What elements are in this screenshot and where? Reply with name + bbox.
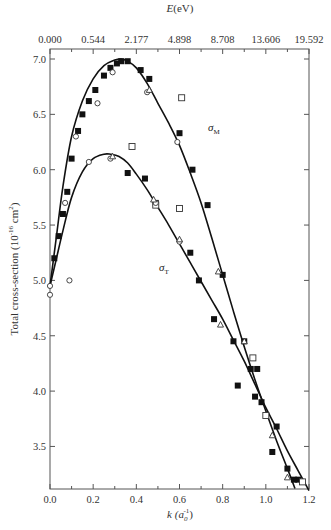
top-tick-label: 0.000 bbox=[38, 34, 62, 45]
y-tick-label: 7.0 bbox=[33, 54, 46, 65]
filled-square-point bbox=[254, 366, 260, 372]
filled-square-point bbox=[252, 394, 258, 400]
filled-square-point bbox=[64, 189, 70, 195]
filled-square-point bbox=[142, 176, 148, 182]
open-square-point bbox=[129, 143, 135, 149]
filled-square-point bbox=[269, 449, 275, 455]
x-tick-label: 0.4 bbox=[130, 494, 144, 505]
top-tick-label: 2.177 bbox=[125, 34, 149, 45]
x-axis-title-main: k (a bbox=[167, 508, 184, 521]
open-circle-point bbox=[110, 70, 115, 75]
y-tick-label: 5.0 bbox=[33, 275, 46, 286]
filled-square-point bbox=[56, 233, 62, 239]
x-tick-label: 1.0 bbox=[259, 494, 272, 505]
filled-square-point bbox=[177, 130, 183, 136]
open-triangle-point bbox=[218, 321, 224, 327]
top-tick-label: 13.606 bbox=[251, 34, 280, 45]
y-axis-title-main: Total cross-section (10 bbox=[8, 235, 21, 336]
filled-square-point bbox=[86, 98, 92, 104]
x-tick-label: 0.0 bbox=[43, 494, 56, 505]
y-tick-label: 5.5 bbox=[33, 220, 46, 231]
x-tick-label: 0.8 bbox=[216, 494, 229, 505]
filled-square-point bbox=[75, 128, 81, 134]
y-axis-title-close: ) bbox=[8, 202, 21, 206]
filled-square-point bbox=[125, 58, 131, 64]
open-circle-point bbox=[73, 134, 78, 139]
top-axis-title: E(eV) bbox=[166, 2, 194, 15]
open-square-point bbox=[250, 355, 256, 361]
filled-square-point bbox=[235, 383, 241, 389]
open-circle-point bbox=[47, 283, 52, 288]
y-axis-title-unit: cm bbox=[8, 209, 20, 226]
filled-square-point bbox=[125, 170, 131, 176]
open-circle-point bbox=[47, 292, 52, 297]
filled-square-point bbox=[51, 255, 57, 261]
open-square-point bbox=[177, 205, 183, 211]
filled-square-point bbox=[60, 211, 66, 217]
x-tick-label: 1.2 bbox=[302, 494, 315, 505]
open-circle-point bbox=[86, 159, 91, 164]
top-tick-label: 4.898 bbox=[168, 34, 192, 45]
filled-square-point bbox=[274, 424, 280, 430]
open-circle-point bbox=[95, 101, 100, 106]
filled-square-point bbox=[146, 76, 152, 82]
open-square-point bbox=[179, 95, 185, 101]
filled-square-point bbox=[230, 338, 236, 344]
filled-square-point bbox=[248, 366, 254, 372]
filled-square-point bbox=[79, 111, 85, 117]
x-tick-label: 0.6 bbox=[173, 494, 186, 505]
filled-square-point bbox=[92, 87, 98, 93]
open-square-point bbox=[300, 479, 306, 485]
open-circle-point bbox=[67, 278, 72, 283]
y-tick-label: 3.5 bbox=[33, 441, 46, 452]
open-circle-point bbox=[175, 139, 180, 144]
filled-square-point bbox=[259, 399, 265, 405]
filled-square-point bbox=[138, 67, 144, 73]
y-tick-label: 6.5 bbox=[33, 109, 46, 120]
open-square-point bbox=[263, 412, 269, 418]
sigma-t-sub: T bbox=[164, 268, 169, 276]
filled-square-point bbox=[118, 58, 124, 64]
sigma-m-curve bbox=[50, 59, 295, 489]
filled-square-point bbox=[196, 277, 202, 283]
series-label-sigma-t: σT bbox=[159, 261, 169, 276]
top-axis-title-rest: (eV) bbox=[173, 2, 193, 15]
cross-section-chart: 0.00.20.40.60.81.01.20.0000.5442.1774.89… bbox=[0, 0, 331, 530]
y-tick-label: 4.0 bbox=[33, 386, 46, 397]
y-tick-label: 6.0 bbox=[33, 165, 46, 176]
series-label-sigma-m: σM bbox=[208, 121, 220, 136]
x-axis-title: k (a0-1) bbox=[167, 507, 193, 523]
x-axis-title-close: ) bbox=[189, 508, 193, 521]
filled-square-point bbox=[211, 316, 217, 322]
y-axis-title: Total cross-section (10-16 cm2) bbox=[7, 202, 21, 335]
filled-square-point bbox=[187, 250, 193, 256]
open-circle-point bbox=[63, 200, 68, 205]
sigma-m-sub: M bbox=[213, 128, 220, 136]
x-tick-label: 0.2 bbox=[87, 494, 100, 505]
x-axis-title-sub: 0 bbox=[184, 515, 188, 523]
filled-square-point bbox=[284, 466, 290, 472]
filled-square-point bbox=[189, 167, 195, 173]
sigma-t-curve bbox=[50, 154, 309, 491]
data-points bbox=[47, 58, 305, 485]
filled-square-point bbox=[101, 73, 107, 79]
top-tick-label: 19.592 bbox=[295, 34, 324, 45]
top-tick-label: 0.544 bbox=[81, 34, 105, 45]
filled-square-point bbox=[69, 156, 75, 162]
filled-square-point bbox=[205, 202, 211, 208]
top-tick-label: 8.708 bbox=[211, 34, 235, 45]
filled-square-point bbox=[291, 477, 297, 483]
y-tick-label: 4.5 bbox=[33, 331, 46, 342]
fit-curves bbox=[50, 59, 309, 491]
